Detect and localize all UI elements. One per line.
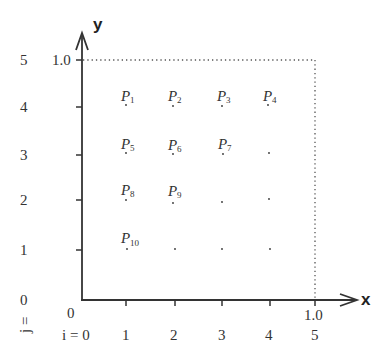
- svg-text:2: 2: [170, 327, 178, 343]
- svg-text:P: P: [120, 182, 130, 198]
- svg-text:9: 9: [177, 190, 182, 200]
- point-p3: P 3: [216, 88, 231, 107]
- svg-text:5: 5: [20, 52, 28, 68]
- j-index-prefix: j =: [17, 317, 33, 334]
- point-p6: P 6: [167, 137, 182, 155]
- svg-text:3: 3: [226, 95, 231, 105]
- svg-text:P: P: [217, 136, 227, 152]
- point-p9: P 9: [167, 183, 182, 204]
- svg-text:2: 2: [177, 95, 182, 105]
- svg-text:P: P: [120, 230, 130, 246]
- point-p10: P 10: [120, 230, 140, 250]
- origin-label: 0: [67, 305, 75, 321]
- svg-text:1: 1: [122, 327, 130, 343]
- svg-text:4: 4: [272, 95, 277, 105]
- svg-text:P: P: [262, 88, 272, 104]
- svg-text:5: 5: [130, 143, 135, 153]
- x-axis-label: x: [361, 290, 371, 309]
- grid-diagram: y x 1.0 1.0 0 5 4 3 2 1 0 j = i = 0 1 2 …: [0, 0, 386, 360]
- svg-text:2: 2: [20, 192, 28, 208]
- svg-text:P: P: [216, 88, 226, 104]
- point-p8: P 8: [120, 182, 135, 201]
- i-index-prefix: i = 0: [62, 327, 90, 343]
- svg-text:10: 10: [130, 238, 140, 248]
- svg-text:P: P: [120, 88, 130, 104]
- svg-text:5: 5: [311, 327, 319, 343]
- svg-text:4: 4: [265, 327, 273, 343]
- i-index-labels: 1 2 3 4 5: [122, 327, 319, 343]
- svg-text:6: 6: [177, 144, 182, 154]
- j-index-labels: 5 4 3 2 1 0: [20, 52, 28, 308]
- svg-text:1: 1: [130, 95, 135, 105]
- svg-text:7: 7: [227, 143, 232, 153]
- svg-text:P: P: [167, 137, 177, 153]
- svg-text:1: 1: [20, 242, 28, 258]
- svg-text:P: P: [120, 136, 130, 152]
- x-max-label: 1.0: [304, 307, 323, 323]
- y-max-label: 1.0: [52, 52, 71, 68]
- point-p7: P 7: [217, 136, 232, 155]
- svg-text:8: 8: [130, 189, 135, 199]
- svg-text:P: P: [167, 183, 177, 199]
- point-p5: P 5: [120, 136, 135, 154]
- svg-text:3: 3: [20, 147, 28, 163]
- svg-text:0: 0: [20, 292, 28, 308]
- svg-text:3: 3: [218, 327, 226, 343]
- svg-text:4: 4: [20, 99, 28, 115]
- y-axis-label: y: [93, 15, 103, 34]
- svg-text:P: P: [167, 88, 177, 104]
- point-p2: P 2: [167, 88, 182, 107]
- point-p4: P 4: [262, 88, 277, 106]
- unlabeled-points: [174, 152, 271, 250]
- point-p1: P 1: [120, 88, 135, 106]
